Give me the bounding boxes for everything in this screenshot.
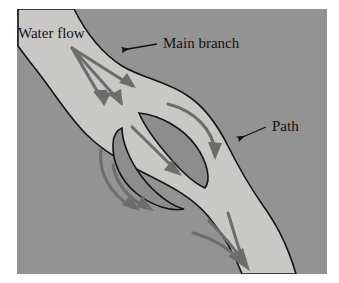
braided-channel-diagram: Water flow Main branch Path xyxy=(0,0,339,283)
label-main-branch: Main branch xyxy=(163,35,240,51)
diagram-figure: Water flow Main branch Path xyxy=(0,0,339,283)
label-water-flow: Water flow xyxy=(18,25,85,41)
label-path: Path xyxy=(272,118,299,134)
